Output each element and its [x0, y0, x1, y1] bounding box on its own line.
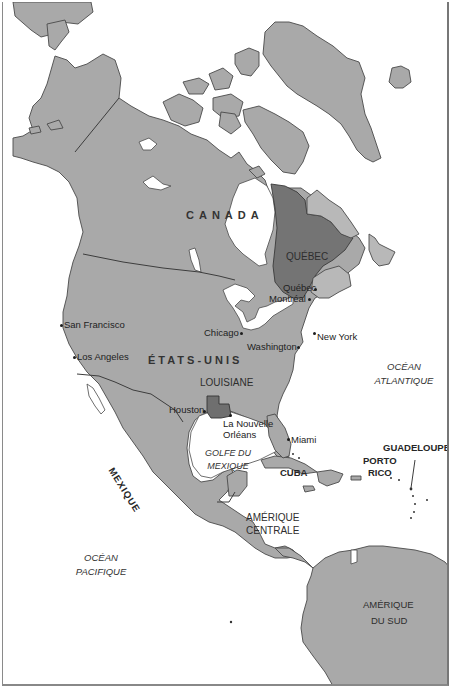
label-washington: Washington: [247, 342, 297, 352]
label-ocean-pacifique-line2: PACIFIQUE: [61, 565, 141, 579]
jamaica-island: [303, 486, 315, 492]
label-golfe-du-mexique: GOLFE DU MEXIQUE: [199, 447, 257, 473]
city-dot-chicago: [240, 332, 243, 335]
label-golfe-line2: MEXIQUE: [199, 460, 257, 473]
newfoundland-island: [369, 234, 395, 266]
iceland: [389, 66, 411, 88]
label-golfe-line1: GOLFE DU: [199, 447, 257, 460]
city-dot-san-francisco: [60, 324, 63, 327]
label-guadeloupe: GUADELOUPE: [383, 443, 449, 453]
map-canvas: [3, 2, 449, 686]
aleutian-island: [29, 126, 41, 134]
north-america-landmass: [13, 54, 365, 558]
label-chicago: Chicago: [204, 328, 239, 338]
puerto-rico-island: [351, 476, 361, 480]
label-usa: ÉTATS-UNIS: [148, 355, 242, 366]
label-ocean-atlantique-line1: OCÉAN: [359, 360, 449, 374]
label-cuba: CUBA: [280, 468, 307, 478]
label-san-francisco: San Francisco: [64, 320, 125, 330]
label-ocean-pacifique: OCÉAN PACIFIQUE: [61, 551, 141, 579]
baffin-island: [243, 106, 309, 174]
ellesmere-island: [235, 48, 259, 76]
label-amerique-sud-2: DU SUD: [371, 616, 407, 626]
label-amerique-centrale-1: AMÉRIQUE: [246, 513, 299, 523]
label-miami: Miami: [291, 435, 316, 445]
city-dot-los-angeles: [73, 356, 76, 359]
label-houston: Houston: [169, 405, 204, 415]
label-quebec-city: Québec: [283, 283, 316, 293]
city-dot-new-york: [313, 332, 316, 335]
label-ocean-pacifique-line1: OCÉAN: [61, 551, 141, 565]
label-amerique-sud-1: AMÉRIQUE: [363, 600, 414, 610]
hispaniola-island: [317, 470, 343, 486]
label-quebec-region: QUÉBEC: [286, 252, 328, 262]
city-dot-nouvelle-orleans: [229, 414, 232, 417]
label-canada: CANADA: [186, 210, 264, 221]
label-ocean-atlantique-line2: ATLANTIQUE: [359, 374, 449, 388]
label-nouvelle-orleans-2: Orléans: [223, 430, 256, 440]
guadeloupe-pointer: [411, 460, 415, 488]
label-montreal: Montréal: [269, 294, 306, 304]
label-amerique-centrale-2: CENTRALE: [246, 526, 299, 536]
city-dot-washington: [297, 346, 300, 349]
arctic-island-3: [209, 68, 233, 90]
label-porto-rico-1: PORTO: [363, 456, 397, 466]
city-dot-montreal: [308, 298, 311, 301]
label-new-york: New York: [317, 332, 357, 342]
chukotka-peninsula: [47, 20, 69, 50]
arctic-island-2: [183, 78, 209, 94]
lake-maracaibo: [351, 550, 357, 564]
label-los-angeles: Los Angeles: [77, 352, 129, 362]
label-nouvelle-orleans-1: La Nouvelle: [223, 419, 273, 429]
arctic-island-1: [163, 94, 203, 126]
label-ocean-atlantique: OCÉAN ATLANTIQUE: [359, 360, 449, 388]
label-porto-rico-2: RICO: [368, 468, 392, 478]
label-louisiane: LOUISIANE: [200, 378, 253, 388]
map-frame: CANADA ÉTATS-UNIS MEXIQUE QUÉBEC LOUISIA…: [2, 2, 449, 686]
yucatan-peninsula: [227, 470, 247, 496]
city-dot-miami: [287, 438, 290, 441]
